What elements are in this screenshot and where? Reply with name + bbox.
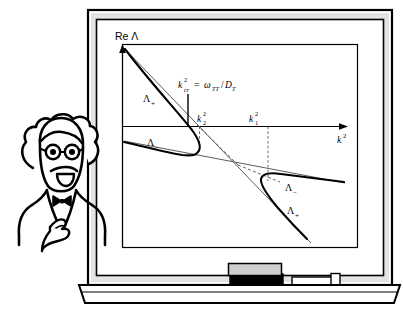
whiteboard-tray [79,285,400,303]
lambda-plus-ul-subscript: + [151,100,155,108]
eye-right-pupil [69,149,75,155]
y-axis-label: Re Λ [115,30,138,42]
k-critical-omega-subscript: TT [212,85,220,92]
eye-left-pupil [50,149,56,155]
k1-exponent: 2 [255,110,258,117]
marker-cap [331,274,340,286]
k-critical-exponent: 2 [184,76,187,83]
screenshot-root: Re Λ k 2 k 2 cr = ω TT / D T k 2 [0,0,403,325]
k1-subscript: 1 [255,119,258,126]
whiteboard-panel[interactable]: Re Λ k 2 k 2 cr = ω TT / D T k 2 [88,10,392,285]
bowtie-knot [60,199,63,203]
tray-body [79,285,400,303]
whiteboard-eraser[interactable] [229,264,284,286]
k-critical-D: D [224,80,232,90]
eraser-body [229,264,282,276]
lambda-minus-l-base: Λ [147,137,155,148]
k-critical-D-subscript: T [232,85,236,92]
y-axis-label-text: Re Λ [115,30,138,42]
lambda-plus-lr-subscript: + [295,212,299,220]
lambda-minus-r-subscript: − [293,189,297,197]
lambda-minus-r-base: Λ [285,182,293,193]
k-critical-equals: = [194,80,199,90]
scene-svg: Re Λ k 2 k 2 cr = ω TT / D T k 2 [0,0,403,325]
k-critical-omega: ω [204,80,211,90]
k-critical-subscript: cr [184,86,190,93]
mouth [57,174,74,186]
x-axis-label-exponent: 2 [343,132,346,139]
k2-subscript: 2 [203,119,206,126]
lambda-minus-l-subscript: − [155,144,159,152]
lambda-plus-ul-base: Λ [143,93,151,104]
k2-exponent: 2 [203,110,206,117]
k-critical-slash: / [221,80,224,90]
lambda-plus-lr-base: Λ [287,205,295,216]
